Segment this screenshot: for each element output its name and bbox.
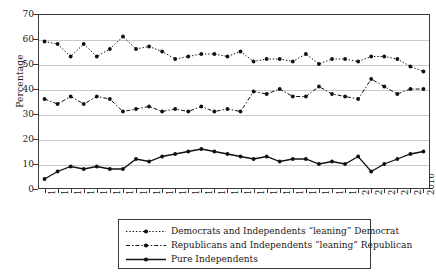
y-axis-tick-mark <box>33 189 38 190</box>
data-point <box>330 92 334 96</box>
data-point <box>69 95 73 99</box>
x-axis-tick-mark <box>293 189 294 193</box>
dotted-line-marker-key <box>125 226 167 237</box>
chart-legend: Democrats and Independents “leaning” Dem… <box>118 219 371 269</box>
x-axis-tick-mark <box>110 189 111 193</box>
data-point <box>265 92 269 96</box>
x-axis-tick-mark <box>423 189 424 193</box>
data-point <box>160 110 164 114</box>
series-1 <box>43 35 426 74</box>
x-axis-tick-mark <box>280 189 281 193</box>
data-point <box>422 150 426 154</box>
legend-item[interactable]: Pure Independents <box>125 253 364 266</box>
x-axis-tick-mark <box>371 189 372 193</box>
data-point <box>147 105 151 109</box>
chart-figure: Percentage 010203040506070 1952195419561… <box>0 0 436 274</box>
data-point <box>108 167 112 171</box>
data-point <box>252 157 256 161</box>
x-axis-tick-mark <box>162 189 163 193</box>
data-point <box>343 95 347 99</box>
data-point <box>173 107 177 111</box>
data-point <box>147 45 151 49</box>
data-point <box>356 97 360 101</box>
data-point <box>173 57 177 61</box>
data-point <box>356 155 360 159</box>
data-point <box>213 150 217 154</box>
x-axis-tick-mark <box>214 189 215 193</box>
x-axis-tick-mark <box>358 189 359 193</box>
data-point <box>356 60 360 64</box>
series-line <box>45 149 424 179</box>
data-point <box>56 42 60 46</box>
data-point <box>226 107 230 111</box>
legend-item[interactable]: Democrats and Independents “leaning” Dem… <box>125 225 364 238</box>
data-point <box>395 57 399 61</box>
y-axis-tick-label: 70 <box>8 10 34 19</box>
x-axis-tick-mark <box>71 189 72 193</box>
data-point <box>382 55 386 59</box>
data-point <box>82 167 86 171</box>
data-point <box>69 165 73 169</box>
series-line <box>45 37 424 72</box>
y-axis-tick-label: 20 <box>8 135 34 144</box>
x-axis-tick-mark <box>188 189 189 193</box>
y-axis-tick-label: 40 <box>8 85 34 94</box>
data-point <box>422 87 426 91</box>
data-point <box>422 70 426 74</box>
x-axis-tick-mark <box>58 189 59 193</box>
data-point <box>160 155 164 159</box>
data-point <box>395 157 399 161</box>
legend-label: Republicans and Independents “leaning” R… <box>167 240 412 251</box>
x-axis-tick-mark <box>84 189 85 193</box>
x-axis-tick-mark <box>227 189 228 193</box>
data-point <box>317 162 321 166</box>
data-point <box>108 47 112 51</box>
y-axis-tick-label: 0 <box>8 185 34 194</box>
data-point <box>95 55 99 59</box>
data-point <box>343 57 347 61</box>
data-point <box>43 40 47 44</box>
data-point <box>265 57 269 61</box>
y-axis-tick-label: 10 <box>8 160 34 169</box>
x-axis-tick-mark <box>123 189 124 193</box>
data-point <box>317 85 321 89</box>
data-point <box>382 162 386 166</box>
x-axis-tick-mark <box>97 189 98 193</box>
x-axis-tick-mark <box>201 189 202 193</box>
x-axis-tick-mark <box>136 189 137 193</box>
dash-dot-line-marker-key <box>125 240 167 251</box>
series-3 <box>43 147 426 181</box>
legend-item[interactable]: Republicans and Independents “leaning” R… <box>125 239 364 252</box>
x-axis-tick-mark <box>319 189 320 193</box>
x-axis-tick-mark <box>267 189 268 193</box>
data-point <box>343 162 347 166</box>
solid-line-marker-key <box>125 254 167 265</box>
data-point <box>121 167 125 171</box>
data-point <box>147 160 151 164</box>
data-point <box>134 107 138 111</box>
data-point <box>239 110 243 114</box>
data-point <box>43 97 47 101</box>
data-point <box>278 87 282 91</box>
data-point <box>330 57 334 61</box>
data-point <box>43 177 47 181</box>
data-point <box>252 90 256 94</box>
data-point <box>199 52 203 56</box>
data-point <box>226 152 230 156</box>
data-point <box>173 152 177 156</box>
data-point <box>291 95 295 99</box>
data-point <box>252 60 256 64</box>
x-axis-tick-mark <box>384 189 385 193</box>
data-point <box>82 42 86 46</box>
x-axis-tick-mark <box>241 189 242 193</box>
data-point <box>82 102 86 106</box>
data-point <box>160 50 164 54</box>
series-line <box>45 79 424 112</box>
data-point <box>409 87 413 91</box>
data-point <box>134 157 138 161</box>
data-point <box>369 55 373 59</box>
legend-label: Democrats and Independents “leaning” Dem… <box>167 226 399 237</box>
data-point <box>121 110 125 114</box>
data-point <box>134 47 138 51</box>
data-point <box>409 152 413 156</box>
